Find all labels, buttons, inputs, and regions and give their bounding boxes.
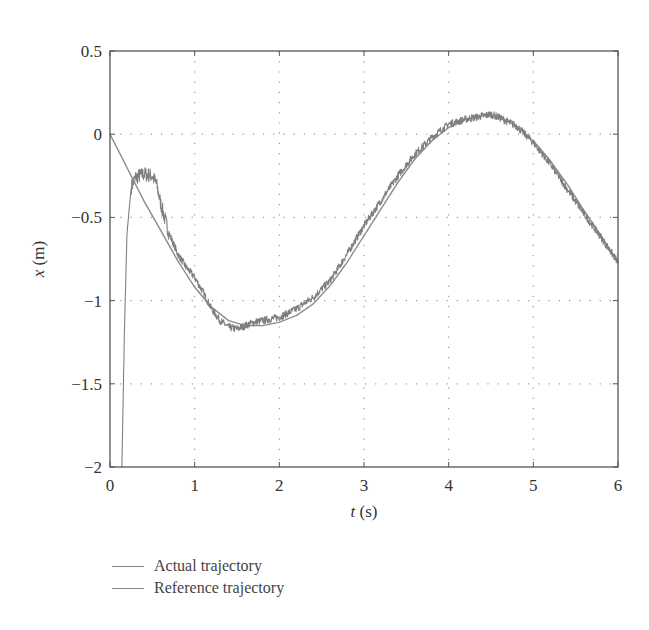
legend: Actual trajectory Reference trajectory: [112, 555, 284, 599]
x-tick-label: 2: [275, 476, 284, 495]
y-tick-label: −1.5: [71, 375, 102, 394]
y-tick-label: 0.5: [81, 42, 102, 61]
x-axis-label: t (s): [351, 502, 378, 521]
y-tick-label: −1: [84, 292, 102, 311]
y-axis-label: x (m): [29, 241, 48, 278]
legend-label-reference: Reference trajectory: [154, 579, 284, 597]
x-tick-label: 1: [190, 476, 199, 495]
y-tick-label: −0.5: [71, 208, 102, 227]
legend-item-reference: Reference trajectory: [112, 577, 284, 599]
legend-label-actual: Actual trajectory: [154, 557, 262, 575]
legend-swatch-actual: [112, 566, 144, 567]
x-tick-label: 6: [614, 476, 623, 495]
x-tick-label: 4: [444, 476, 453, 495]
legend-item-actual: Actual trajectory: [112, 555, 284, 577]
axis-ticks: 01234560.50−0.5−1−1.5−2: [71, 42, 622, 495]
legend-swatch-reference: [112, 588, 144, 589]
x-tick-label: 0: [106, 476, 115, 495]
y-tick-label: 0: [94, 125, 103, 144]
y-tick-label: −2: [84, 458, 102, 477]
data-series: [110, 112, 618, 467]
x-tick-label: 3: [360, 476, 369, 495]
grid-lines: [110, 51, 618, 467]
chart: 01234560.50−0.5−1−1.5−2 t (s) x (m): [0, 0, 649, 630]
x-tick-label: 5: [529, 476, 538, 495]
reference-trajectory-line: [110, 116, 618, 326]
